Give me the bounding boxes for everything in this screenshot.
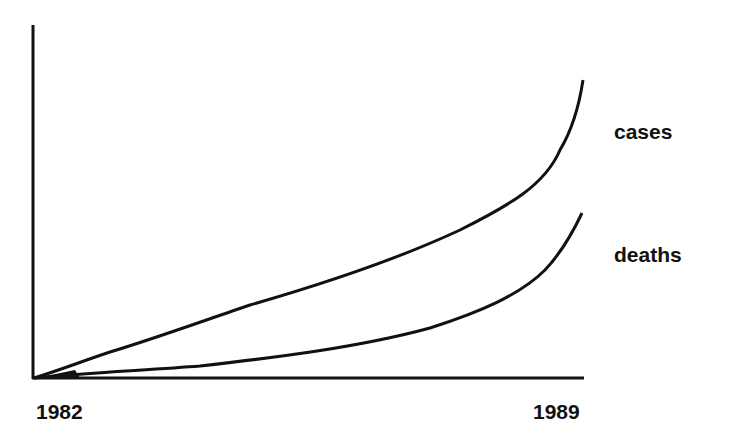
x-tick-label-start: 1982 xyxy=(36,400,83,424)
x-tick-label-end: 1989 xyxy=(533,400,580,424)
deaths-series-line xyxy=(34,213,582,378)
series-label-deaths: deaths xyxy=(614,243,682,267)
cases-series-line xyxy=(34,80,583,378)
series-label-cases: cases xyxy=(614,120,672,144)
line-chart xyxy=(0,0,730,447)
